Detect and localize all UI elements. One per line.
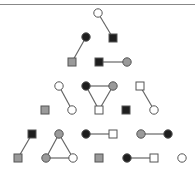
- gray-square-node-icon: [68, 58, 76, 66]
- edges-layer: [18, 13, 168, 158]
- black-square-node-icon: [95, 58, 103, 66]
- white-square-node-icon: [109, 130, 117, 138]
- white-circle-node-icon: [178, 154, 186, 162]
- black-circle-node-icon: [123, 154, 131, 162]
- black-circle-node-icon: [82, 33, 90, 41]
- gray-circle-node-icon: [137, 130, 145, 138]
- gray-circle-node-icon: [109, 82, 117, 90]
- black-square-node-icon: [122, 106, 130, 114]
- black-circle-node-icon: [164, 130, 172, 138]
- white-square-node-icon: [136, 82, 144, 90]
- gray-circle-node-icon: [55, 130, 63, 138]
- gray-circle-node-icon: [42, 154, 50, 162]
- graph-pyramid-diagram: [0, 0, 195, 173]
- white-circle-node-icon: [94, 9, 102, 17]
- black-square-node-icon: [109, 34, 117, 42]
- gray-square-node-icon: [95, 154, 103, 162]
- gray-square-node-icon: [14, 154, 22, 162]
- white-square-node-icon: [150, 154, 158, 162]
- white-circle-node-icon: [68, 106, 76, 114]
- gray-circle-node-icon: [123, 58, 131, 66]
- black-circle-node-icon: [82, 130, 90, 138]
- black-circle-node-icon: [82, 82, 90, 90]
- white-circle-node-icon: [55, 82, 63, 90]
- white-circle-node-icon: [150, 106, 158, 114]
- white-square-node-icon: [95, 106, 103, 114]
- white-circle-node-icon: [69, 154, 77, 162]
- gray-square-node-icon: [41, 106, 49, 114]
- black-square-node-icon: [28, 130, 36, 138]
